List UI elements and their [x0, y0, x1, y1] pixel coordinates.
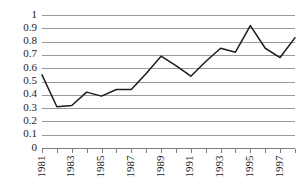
- line-chart: 10.90.80.70.60.50.40.30.20.10 1981198319…: [0, 0, 308, 187]
- gridlines-group: [42, 16, 295, 136]
- y-axis-tick-label: 0.4: [23, 87, 37, 99]
- y-axis-tick-label: 0.3: [23, 101, 37, 113]
- y-axis-tick-label: 0.1: [23, 127, 37, 139]
- x-axis-tick-label: 1995: [243, 155, 255, 178]
- y-axis-tick-label: 0.5: [23, 74, 37, 86]
- x-axis-tick-label: 1985: [94, 155, 106, 178]
- y-axis-tick-label: 0: [32, 141, 38, 153]
- y-axis-tick-label: 1: [32, 8, 38, 20]
- x-axis-tick-label: 1981: [35, 156, 47, 178]
- x-axis-labels-group: 198119831985198719891991199319951997: [35, 155, 285, 178]
- x-axis-tick-label: 1993: [213, 155, 225, 178]
- series-group: [42, 26, 295, 107]
- y-axis-tick-label: 0.7: [23, 47, 37, 59]
- y-axis-labels-group: 10.90.80.70.60.50.40.30.20.10: [23, 8, 37, 153]
- y-axis-tick-label: 0.9: [23, 21, 37, 33]
- x-axis-tick-label: 1991: [183, 156, 195, 178]
- x-axis-tick-label: 1997: [273, 155, 285, 178]
- data-series-line: [42, 26, 295, 107]
- y-axis-tick-label: 0.6: [23, 61, 37, 73]
- x-axis-tick-label: 1989: [154, 155, 166, 178]
- x-axis-group: [42, 149, 296, 153]
- y-axis-tick-label: 0.8: [23, 34, 37, 46]
- chart-canvas: 10.90.80.70.60.50.40.30.20.10 1981198319…: [0, 0, 308, 187]
- x-axis-tick-label: 1983: [64, 155, 76, 178]
- y-axis-tick-label: 0.2: [23, 114, 37, 126]
- x-axis-tick-label: 1987: [124, 155, 136, 178]
